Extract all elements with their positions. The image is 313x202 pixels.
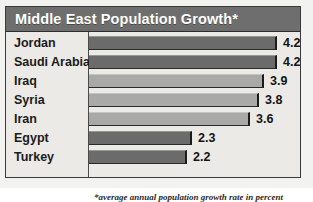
bar-value-label: 4.2 [283,54,300,70]
chart-frame: Middle East Population Growth* Jordan4.2… [5,6,301,178]
chart-title: Middle East Population Growth* [6,11,238,27]
bar-value-label: 3.6 [256,111,273,127]
chart-figure: Middle East Population Growth* Jordan4.2… [0,0,313,188]
category-label: Syria [14,91,45,109]
category-label: Jordan [14,34,56,52]
bar [89,131,192,145]
bar-track: 2.2 [89,150,300,164]
bar-rows: Jordan4.2Saudi Arabia4.2Iraq3.9Syria3.8I… [6,32,300,177]
bar-track: 3.6 [89,112,300,126]
bar [89,36,277,50]
chart-plot-area: Jordan4.2Saudi Arabia4.2Iraq3.9Syria3.8I… [6,32,300,177]
category-label: Saudi Arabia [14,53,90,71]
bar [89,150,187,164]
bar-track: 3.8 [89,93,300,107]
bar-row: Iraq3.9 [6,72,300,90]
bar-row: Jordan4.2 [6,34,300,52]
bar [89,93,259,107]
bar [89,55,277,69]
chart-header: Middle East Population Growth* [6,7,300,32]
bar-value-label: 2.3 [198,130,215,146]
bar-track: 4.2 [89,55,300,69]
bar-value-label: 4.2 [283,35,300,51]
bar-track: 3.9 [89,74,300,88]
bar [89,112,250,126]
bar [89,74,264,88]
bar-row: Egypt2.3 [6,129,300,147]
category-label: Iraq [14,72,37,90]
bar-row: Syria3.8 [6,91,300,109]
bar-track: 4.2 [89,36,300,50]
category-label: Iran [14,110,37,128]
category-label: Turkey [14,148,54,166]
bar-value-label: 3.8 [265,92,282,108]
bar-row: Saudi Arabia4.2 [6,53,300,71]
bar-value-label: 2.2 [193,149,210,165]
bar-row: Turkey2.2 [6,148,300,166]
category-label: Egypt [14,129,49,147]
bar-value-label: 3.9 [270,73,287,89]
bar-row: Iran3.6 [6,110,300,128]
bar-track: 2.3 [89,131,300,145]
